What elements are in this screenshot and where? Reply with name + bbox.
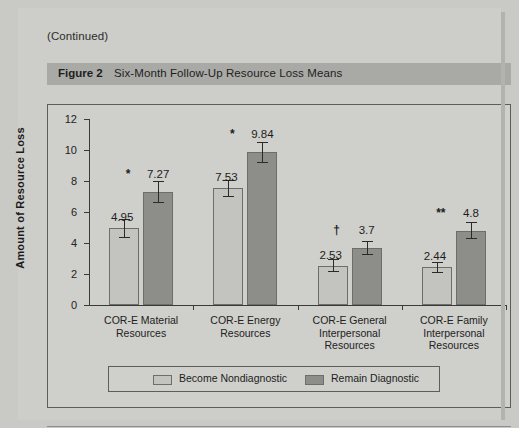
y-axis-tick: 4 — [84, 243, 89, 244]
error-bar-cap-bottom — [328, 271, 339, 272]
x-category-line: COR-E Material — [104, 314, 178, 327]
bar-nondiagnostic — [109, 228, 139, 305]
y-axis-tick-label: 12 — [65, 113, 77, 125]
x-axis-tick — [402, 305, 403, 310]
plot-area: 0246810124.95*7.27COR-E MaterialResource… — [89, 119, 506, 305]
error-bar-cap-top — [153, 181, 164, 182]
bar-value-label: 3.7 — [359, 224, 375, 236]
error-bar-cap-bottom — [119, 237, 130, 238]
y-axis-tick-label: 4 — [71, 237, 77, 249]
chart-frame: Amount of Resource Loss 0246810124.95*7.… — [47, 104, 511, 408]
x-category-line: COR-E General — [313, 314, 387, 327]
y-axis-tick-label: 6 — [71, 206, 77, 218]
y-axis-tick-label: 8 — [71, 175, 77, 187]
x-category-line: COR-E Energy — [210, 314, 280, 327]
bar-diagnostic — [247, 152, 277, 305]
chart-legend: Become NondiagnosticRemain Diagnostic — [108, 366, 440, 392]
bar-value-label: 9.84 — [251, 128, 273, 140]
bar-diagnostic — [456, 231, 486, 305]
x-category-line: Resources — [104, 327, 178, 340]
y-axis-line — [89, 119, 90, 305]
y-axis-tick: 0 — [84, 305, 89, 306]
figure-title: Six-Month Follow-Up Resource Loss Means — [114, 67, 342, 79]
legend-swatch — [153, 375, 172, 385]
error-bar-stem — [262, 142, 263, 163]
y-axis-tick-label: 2 — [71, 268, 77, 280]
error-bar-stem — [471, 222, 472, 239]
x-axis-tick — [298, 305, 299, 310]
x-category-line: Resources — [210, 327, 280, 340]
error-bar-stem — [158, 181, 159, 203]
significance-marker: * — [230, 127, 235, 141]
continued-note: (Continued) — [47, 30, 108, 42]
error-bar-stem — [367, 241, 368, 255]
y-axis-tick: 12 — [84, 119, 89, 120]
y-axis-tick: 2 — [84, 274, 89, 275]
legend-label: Become Nondiagnostic — [179, 372, 287, 384]
error-bar-cap-top — [466, 222, 477, 223]
error-bar-cap-bottom — [223, 196, 234, 197]
error-bar-cap-bottom — [153, 202, 164, 203]
significance-marker: ** — [436, 206, 445, 220]
x-category-line: Resources — [420, 339, 488, 352]
significance-marker: † — [333, 223, 340, 237]
bar-value-label: 4.8 — [463, 207, 479, 219]
bar-value-label: 4.95 — [111, 211, 133, 223]
x-axis-category-label: COR-E GeneralInterpersonalResources — [313, 314, 387, 352]
figure-number: Figure 2 — [58, 67, 103, 79]
error-bar-cap-top — [257, 142, 268, 143]
page-root: (Continued) Figure 2 Six-Month Follow-Up… — [0, 0, 519, 428]
x-axis-category-label: COR-E MaterialResources — [104, 314, 178, 339]
bar-value-label: 2.44 — [424, 250, 446, 262]
x-category-line: Interpersonal — [420, 327, 488, 340]
bar-diagnostic — [143, 192, 173, 305]
error-bar-cap-bottom — [257, 162, 268, 163]
error-bar-cap-bottom — [466, 238, 477, 239]
x-category-line: Interpersonal — [313, 327, 387, 340]
bar-value-label: 2.53 — [319, 249, 341, 261]
x-axis-category-label: COR-E FamilyInterpersonalResources — [420, 314, 488, 352]
bar-value-label: 7.27 — [147, 168, 169, 180]
y-axis-tick: 6 — [84, 212, 89, 213]
x-axis-category-label: COR-E EnergyResources — [210, 314, 280, 339]
x-axis-tick — [506, 305, 507, 310]
figure-caption-band: Figure 2 Six-Month Follow-Up Resource Lo… — [47, 63, 511, 85]
bar-nondiagnostic — [213, 188, 243, 305]
significance-marker: * — [126, 167, 131, 181]
x-category-line: Resources — [313, 339, 387, 352]
y-axis-tick: 10 — [84, 150, 89, 151]
bar-value-label: 7.53 — [215, 171, 237, 183]
error-bar-cap-bottom — [362, 254, 373, 255]
legend-label: Remain Diagnostic — [331, 372, 419, 384]
page-sheet: (Continued) Figure 2 Six-Month Follow-Up… — [18, 8, 501, 420]
error-bar-cap-top — [362, 241, 373, 242]
legend-swatch — [305, 375, 324, 385]
x-category-line: COR-E Family — [420, 314, 488, 327]
y-axis-tick-label: 0 — [71, 299, 77, 311]
y-axis-tick: 8 — [84, 181, 89, 182]
error-bar-cap-bottom — [432, 272, 443, 273]
x-axis-tick — [193, 305, 194, 310]
y-axis-label: Amount of Resource Loss — [14, 127, 26, 269]
bar-diagnostic — [352, 248, 382, 305]
footer-rule — [47, 426, 511, 427]
y-axis-tick-label: 10 — [65, 144, 77, 156]
bar-nondiagnostic — [422, 267, 452, 305]
